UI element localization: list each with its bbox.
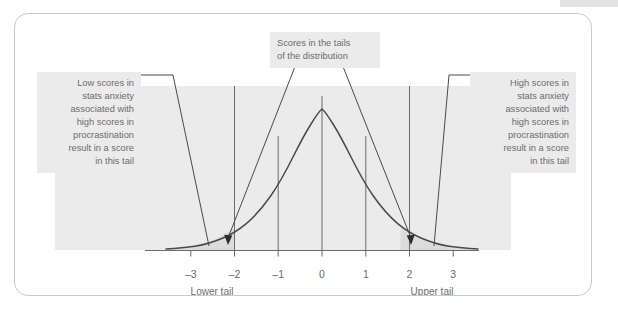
- tick-label-plus3: 3: [438, 268, 468, 280]
- tick-label-plus1: 1: [351, 268, 381, 280]
- tick-label-minus1: –1: [263, 268, 293, 280]
- figure-card: Low scores in stats anxiety associated w…: [14, 13, 592, 296]
- caption-lower-tail: Lower tail: [167, 286, 257, 296]
- normal-distribution-chart: Low scores in stats anxiety associated w…: [15, 14, 592, 296]
- callout-high-scores: High scores in stats anxiety associated …: [470, 72, 576, 173]
- tick-label-minus3: –3: [176, 268, 206, 280]
- tick-label-minus2: –2: [220, 268, 250, 280]
- callout-low-scores: Low scores in stats anxiety associated w…: [37, 72, 141, 173]
- tick-label-zero: 0: [307, 268, 337, 280]
- caption-upper-tail: Upper tail: [387, 286, 477, 296]
- callout-scores-in-tails: Scores in the tails of the distribution: [270, 32, 380, 68]
- page-top-strip: [560, 0, 618, 7]
- tick-label-plus2: 2: [395, 268, 425, 280]
